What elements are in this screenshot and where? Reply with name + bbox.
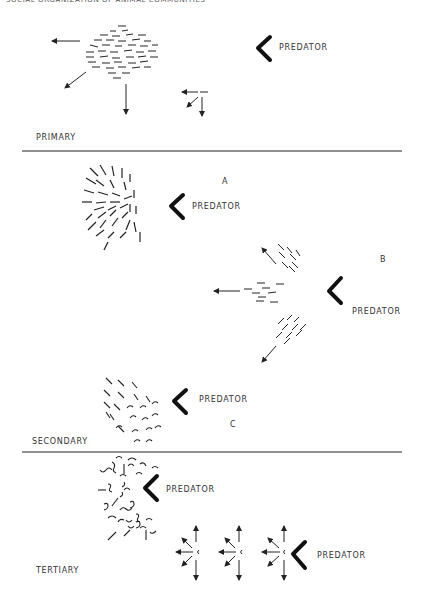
predator-icon [171,195,183,218]
primary-small-group [182,92,208,116]
secondary-b-middle-group [214,283,284,302]
predator-icon [329,278,341,303]
panel-a-predator-label: PREDATOR [192,202,241,211]
tertiary-scattered-school [98,457,158,541]
panel-b-predator-label: PREDATOR [352,307,401,316]
predator-icon [145,476,157,500]
secondary-b-upper-group [262,244,300,272]
primary-predator-label: PREDATOR [279,43,328,52]
secondary-b-lower-group [262,315,306,362]
tertiary-flash-unit-1 [176,526,199,580]
primary-section-label: PRIMARY [36,133,76,142]
tertiary-flash-unit-2 [219,526,242,580]
secondary-section-label: SECONDARY [32,437,88,446]
secondary-c-school [104,378,161,442]
panel-c-predator-label: PREDATOR [199,395,248,404]
predator-icon [258,37,270,60]
secondary-a-school [82,165,140,250]
primary-school-dashes [86,26,158,78]
predator-icon [293,542,305,568]
predator-icon [174,390,186,413]
panel-b-letter: B [380,255,386,264]
tertiary-predator-label-1: PREDATOR [166,485,215,494]
panel-c-letter: C [230,420,236,429]
tertiary-section-label: TERTIARY [36,566,79,575]
tertiary-flash-unit-3 [262,526,285,580]
predator-response-diagram [0,0,423,603]
tertiary-predator-label-2: PREDATOR [317,551,366,560]
panel-a-letter: A [222,177,228,186]
